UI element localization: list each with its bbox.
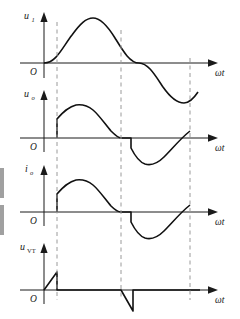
io-x-axis-arrow — [208, 208, 218, 216]
uo-y-axis-arrow — [40, 90, 47, 100]
uvt-origin-label: O — [30, 294, 37, 304]
uvt-x-axis-arrow — [208, 286, 218, 294]
uo-axis-label-subscript: o — [32, 94, 36, 101]
io-y-axis-arrow — [40, 165, 47, 175]
io-origin-label: O — [30, 216, 37, 226]
u1-origin-label: O — [30, 67, 37, 77]
uo-output-voltage-curve — [57, 105, 190, 165]
uo-origin-label: O — [30, 142, 37, 152]
uvt-y-axis-arrow — [40, 243, 47, 253]
uvt-axis-label-subscript: VT — [27, 247, 36, 254]
uo-x-axis-arrow — [208, 134, 218, 142]
uvt-omega-t-label: ωt — [215, 295, 225, 305]
io-axis-label: i — [25, 163, 28, 174]
u1-axis-label-subscript: 1 — [32, 16, 35, 23]
u1-axis-label: u — [24, 10, 29, 21]
waveform-figure: u 1 O ωt u o O ωt i o — [0, 0, 240, 319]
u1-y-axis-arrow — [40, 12, 47, 22]
panel-u1: u 1 O ωt — [20, 10, 225, 103]
io-axis-label-subscript: o — [30, 169, 34, 176]
uvt-axis-label: u — [20, 241, 25, 252]
uo-axis-label: u — [24, 88, 29, 99]
io-output-current-curve — [57, 180, 190, 239]
uo-omega-t-label: ωt — [215, 143, 225, 153]
panel-io: i o O ωt — [20, 163, 225, 239]
u1-x-axis-arrow — [208, 59, 218, 67]
u1-omega-t-label: ωt — [215, 68, 225, 78]
panel-uo: u o O ωt — [20, 88, 225, 165]
page-edge-artifact-bottom — [0, 205, 4, 235]
uvt-thyristor-voltage-curve — [44, 272, 200, 311]
waveform-canvas: u 1 O ωt u o O ωt i o — [0, 0, 240, 319]
io-omega-t-label: ωt — [215, 217, 225, 227]
page-edge-artifact-top — [0, 168, 4, 198]
panel-uvt: u VT O ωt — [20, 241, 225, 311]
